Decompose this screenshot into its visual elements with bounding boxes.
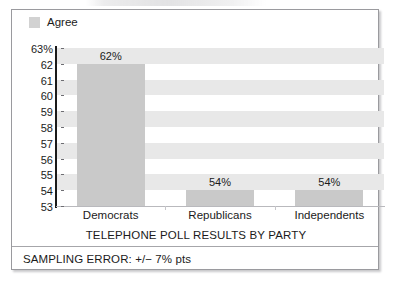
legend-swatch-agree	[29, 17, 40, 28]
sampling-error-note: SAMPLING ERROR: +/− 7% pts	[23, 253, 191, 265]
y-axis-tick-mark	[61, 206, 64, 207]
y-axis-tick-label: 63%	[23, 44, 53, 55]
category-label-independents: Independents	[275, 210, 384, 222]
y-axis-tick-label: 58	[23, 123, 53, 134]
y-axis-tick-mark	[61, 111, 64, 112]
y-axis-tick-label: 56	[23, 155, 53, 166]
category-label-republicans: Republicans	[165, 210, 274, 222]
chart-card: Agree 62%54%54% 63%62616059585756555453 …	[11, 9, 379, 270]
x-axis-line	[56, 206, 385, 207]
y-axis-tick-label: 59	[23, 107, 53, 118]
y-axis-tick-mark	[61, 143, 64, 144]
y-axis-tick-mark	[61, 80, 64, 81]
y-axis-tick-label: 53	[23, 202, 53, 213]
y-axis-tick-mark	[61, 127, 64, 128]
y-axis-tick-mark	[61, 95, 64, 96]
y-axis-line	[55, 46, 57, 208]
x-axis-title: TELEPHONE POLL RESULTS BY PARTY	[12, 229, 380, 241]
category-separator-tick	[275, 206, 276, 210]
y-axis-tick-label: 57	[23, 139, 53, 150]
y-axis-tick-label: 55	[23, 170, 53, 181]
y-axis-tick-mark	[61, 190, 64, 191]
y-axis-tick-label: 62	[23, 60, 53, 71]
footer-divider	[12, 246, 378, 247]
x-axis-category-labels: DemocratsRepublicansIndependents	[56, 210, 384, 226]
y-axis-tick-label: 61	[23, 76, 53, 87]
y-axis-tick-label: 54	[23, 186, 53, 197]
y-axis-tick-labels: 63%62616059585756555453	[20, 48, 53, 206]
plot-area: 62%54%54%	[56, 48, 384, 206]
legend-label-agree: Agree	[47, 17, 78, 29]
bar-value-label: 62%	[81, 51, 141, 62]
y-axis-tick-mark	[61, 159, 64, 160]
scan-artifact-strip	[86, 0, 266, 6]
category-label-democrats: Democrats	[56, 210, 165, 222]
bar-republicans	[186, 190, 254, 206]
y-axis-tick-mark	[61, 64, 64, 65]
bar-democrats	[77, 64, 145, 206]
category-separator-tick	[165, 206, 166, 210]
y-axis-tick-mark	[61, 174, 64, 175]
bar-value-label: 54%	[299, 177, 359, 188]
y-axis-tick-mark	[61, 48, 64, 49]
bar-independents	[295, 190, 363, 206]
bar-value-label: 54%	[190, 177, 250, 188]
y-axis-tick-label: 60	[23, 91, 53, 102]
chart-legend: Agree	[29, 17, 78, 29]
